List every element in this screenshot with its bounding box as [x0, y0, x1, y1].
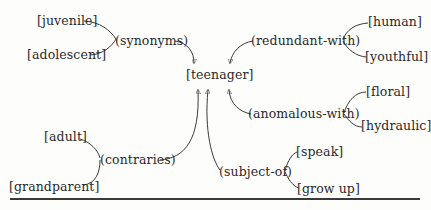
node-grandparent: [grandparent] — [9, 180, 99, 194]
node-adolescent: [adolescent] — [27, 48, 106, 62]
node-adult: [adult] — [44, 130, 87, 144]
node-human: [human] — [368, 15, 422, 29]
relation-anomalous-with: (anomalous-with) — [248, 107, 360, 121]
relation-contraries: (contraries) — [100, 153, 176, 167]
node-speak: [speak] — [296, 145, 343, 159]
node-grow-up: [grow up] — [297, 182, 360, 196]
node-juvenile: [juvenile] — [37, 14, 98, 28]
horizontal-rule — [10, 198, 420, 200]
semantic-network-diagram: [teenager] (synonyms) [juvenile] [adoles… — [0, 0, 431, 210]
edge-contraries-teenager — [160, 90, 198, 160]
edge-redundant-teenager — [230, 41, 253, 63]
relation-redundant-with: (redundant-with) — [251, 34, 360, 48]
edge-subject-teenager — [207, 90, 220, 170]
node-hydraulic: [hydraulic] — [361, 119, 431, 133]
node-teenager: [teenager] — [186, 68, 253, 82]
relation-synonyms: (synonyms) — [115, 34, 188, 48]
node-youthful: [youthful] — [365, 50, 428, 64]
node-floral: [floral] — [366, 85, 410, 99]
relation-subject-of: (subject-of) — [219, 165, 292, 179]
